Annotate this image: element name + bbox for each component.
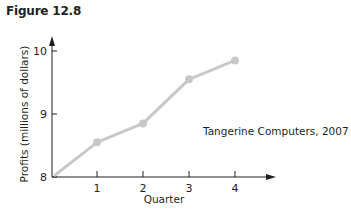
y-tick-label: 9 xyxy=(40,108,47,121)
series-line xyxy=(55,60,235,175)
y-axis-arrow-icon xyxy=(49,36,55,46)
x-axis-arrow-icon xyxy=(266,174,276,180)
data-point-marker xyxy=(231,56,239,64)
data-point-marker xyxy=(93,138,101,146)
y-axis-label: Profits (millions of dollars) xyxy=(18,46,30,183)
chart-annotation: Tangerine Computers, 2007 xyxy=(202,125,349,137)
data-series xyxy=(55,56,239,175)
y-ticks: 8910 xyxy=(33,45,57,184)
y-tick-label: 10 xyxy=(33,45,47,58)
x-axis-label: Quarter xyxy=(144,193,185,205)
data-point-marker xyxy=(185,75,193,83)
x-tick-label: 4 xyxy=(232,182,239,195)
x-tick-label: 1 xyxy=(94,182,101,195)
x-ticks: 1234 xyxy=(94,171,239,195)
y-tick-label: 8 xyxy=(40,171,47,184)
data-point-marker xyxy=(139,119,147,127)
x-tick-label: 3 xyxy=(186,182,193,195)
line-chart: 8910 1234 Profits (millions of dollars) … xyxy=(0,0,351,216)
